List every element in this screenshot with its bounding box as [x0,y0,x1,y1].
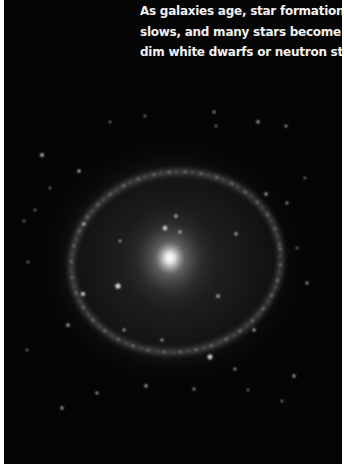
caption-line-2: slows, and many stars become [140,22,342,43]
galaxy-illustration [4,0,342,464]
galaxy-core [110,192,230,324]
caption-text: As galaxies age, star formation slows, a… [140,1,342,63]
caption-line-3: dim white dwarfs or neutron stars. [140,42,342,63]
caption-line-1: As galaxies age, star formation [140,1,342,22]
galaxy-image-panel: As galaxies age, star formation slows, a… [4,0,342,464]
